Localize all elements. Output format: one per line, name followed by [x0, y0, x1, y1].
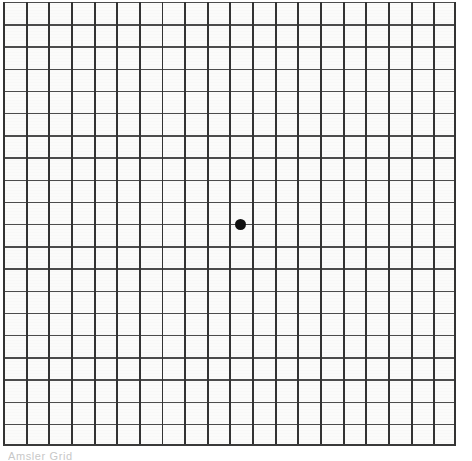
amsler-grid-page: Amsler Grid: [0, 0, 472, 461]
grid-bottom-border: [3, 444, 456, 446]
center-fixation-dot: [235, 219, 246, 230]
grid-chart-area: [3, 2, 456, 446]
grid-vertical-lines: [3, 2, 456, 446]
caption-text: Amsler Grid: [8, 450, 228, 461]
grid-right-border: [454, 2, 456, 446]
